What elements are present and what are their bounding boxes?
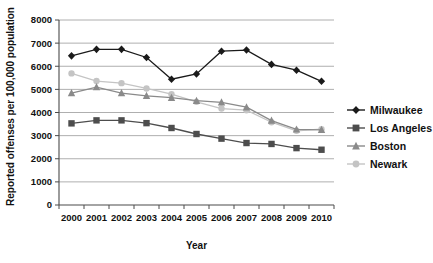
data-point-diamond bbox=[93, 46, 100, 54]
legend-label: Newark bbox=[370, 158, 408, 170]
data-point-square bbox=[218, 135, 224, 141]
series-boston bbox=[68, 83, 325, 133]
y-tick-label: 7000 bbox=[31, 38, 52, 49]
y-tick-label: 4000 bbox=[31, 107, 52, 118]
x-tick-label: 2006 bbox=[211, 212, 232, 223]
y-axis-title: Reported offenses per 100,000 population bbox=[5, 7, 16, 206]
data-point-square bbox=[353, 125, 360, 132]
x-axis-ticks: 2000200120022003200420052006200720082009… bbox=[59, 205, 334, 223]
data-point-diamond bbox=[68, 52, 75, 60]
legend-item-newark[interactable]: Newark bbox=[347, 158, 408, 170]
x-axis-title: Year bbox=[186, 240, 207, 251]
legend-item-milwaukee[interactable]: Milwaukee bbox=[347, 104, 423, 116]
data-point-square bbox=[143, 120, 149, 126]
data-point-triangle bbox=[93, 83, 100, 90]
data-point-diamond bbox=[118, 46, 125, 54]
data-point-square bbox=[193, 131, 199, 137]
data-point-square bbox=[268, 141, 274, 147]
x-tick-label: 2009 bbox=[286, 212, 307, 223]
x-tick-label: 2004 bbox=[161, 212, 183, 223]
series-milwaukee bbox=[68, 46, 325, 86]
legend-item-boston[interactable]: Boston bbox=[347, 140, 406, 152]
legend-label: Boston bbox=[370, 140, 406, 152]
y-tick-label: 3000 bbox=[31, 130, 52, 141]
data-point-diamond bbox=[268, 61, 275, 69]
x-tick-label: 2002 bbox=[111, 212, 132, 223]
data-point-triangle bbox=[268, 117, 275, 124]
x-tick-label: 2003 bbox=[136, 212, 157, 223]
x-tick-label: 2001 bbox=[86, 212, 108, 223]
data-point-circle bbox=[68, 70, 74, 76]
x-tick-label: 2010 bbox=[311, 212, 332, 223]
data-point-square bbox=[68, 120, 74, 126]
data-point-square bbox=[168, 125, 174, 131]
y-tick-label: 6000 bbox=[31, 61, 52, 72]
chart-legend: MilwaukeeLos AngelesBostonNewark bbox=[347, 104, 432, 170]
x-tick-label: 2000 bbox=[61, 212, 82, 223]
series-line bbox=[72, 87, 322, 130]
data-point-square bbox=[243, 140, 249, 146]
x-tick-label: 2008 bbox=[261, 212, 282, 223]
y-tick-label: 8000 bbox=[31, 14, 52, 25]
data-point-circle bbox=[353, 161, 360, 168]
series-layer bbox=[68, 46, 325, 153]
y-tick-label: 5000 bbox=[31, 84, 52, 95]
series-los-angeles bbox=[68, 117, 324, 153]
y-tick-label: 0 bbox=[47, 199, 52, 210]
legend-item-los-angeles[interactable]: Los Angeles bbox=[347, 122, 432, 134]
y-tick-label: 2000 bbox=[31, 153, 52, 164]
data-point-diamond bbox=[318, 77, 325, 85]
data-point-diamond bbox=[293, 66, 300, 74]
legend-label: Milwaukee bbox=[370, 104, 423, 116]
legend-label: Los Angeles bbox=[370, 122, 432, 134]
data-point-circle bbox=[218, 105, 224, 111]
data-point-circle bbox=[118, 80, 124, 86]
y-axis-ticks: 010002000300040005000600070008000 bbox=[31, 14, 59, 210]
data-point-diamond bbox=[243, 46, 250, 54]
data-point-diamond bbox=[352, 106, 360, 114]
x-tick-label: 2007 bbox=[236, 212, 257, 223]
chart-canvas: 010002000300040005000600070008000 200020… bbox=[0, 0, 433, 263]
data-point-square bbox=[118, 117, 124, 123]
y-tick-label: 1000 bbox=[31, 176, 52, 187]
x-tick-label: 2005 bbox=[186, 212, 208, 223]
line-chart: 010002000300040005000600070008000 200020… bbox=[0, 0, 433, 263]
data-point-square bbox=[93, 117, 99, 123]
data-point-square bbox=[318, 147, 324, 153]
data-point-square bbox=[293, 145, 299, 151]
data-point-circle bbox=[143, 85, 149, 91]
